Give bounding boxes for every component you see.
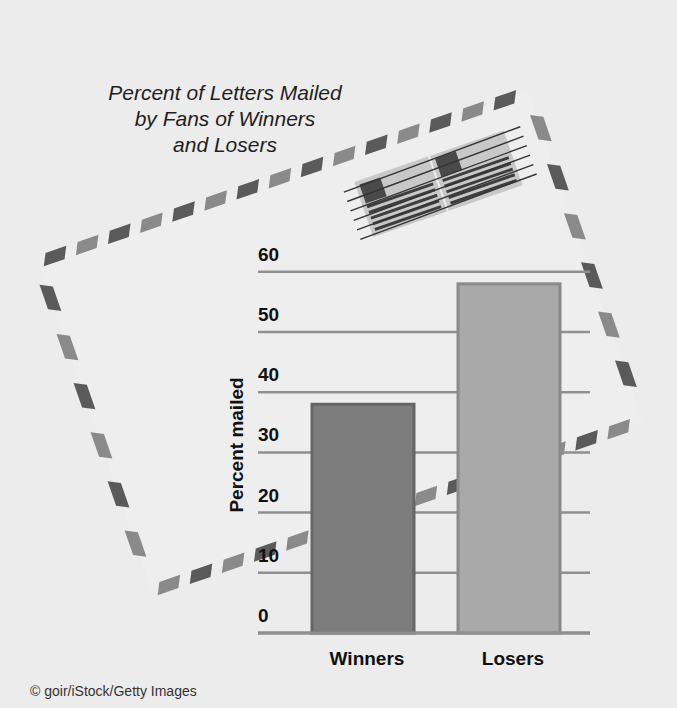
y-tick-label: 0 — [258, 605, 298, 627]
y-tick-label: 30 — [258, 424, 298, 446]
y-tick-label: 40 — [258, 364, 298, 386]
y-tick-label: 60 — [258, 244, 298, 266]
image-credit: © goir/iStock/Getty Images — [30, 683, 197, 699]
bar-winners — [312, 404, 414, 633]
bar-losers — [458, 284, 560, 633]
x-category-winners: Winners — [287, 648, 447, 670]
y-axis-label: Percent mailed — [226, 377, 248, 512]
y-tick-label: 20 — [258, 485, 298, 507]
x-category-losers: Losers — [433, 648, 593, 670]
chart-figure: Percent of Letters Mailed by Fans of Win… — [0, 0, 677, 708]
bar-plot-area — [0, 0, 677, 708]
y-tick-label: 10 — [258, 545, 298, 567]
y-tick-label: 50 — [258, 304, 298, 326]
